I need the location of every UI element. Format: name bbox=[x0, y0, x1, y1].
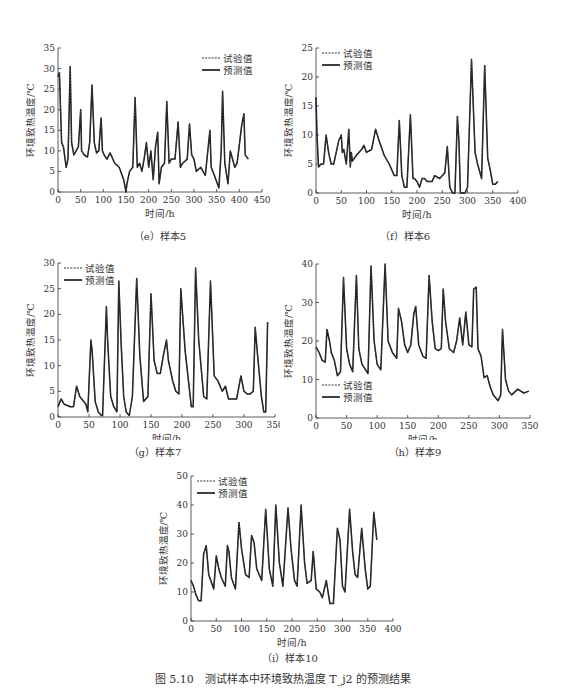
svg-text:环境致热温度/℃: 环境致热温度/℃ bbox=[25, 83, 36, 157]
svg-text:25: 25 bbox=[44, 84, 56, 94]
svg-text:200: 200 bbox=[408, 196, 425, 206]
svg-text:25: 25 bbox=[302, 43, 314, 53]
chart-panel-h: 050100150200250300350010203040时间/h环境致热温度… bbox=[280, 250, 566, 460]
chart-panel-g: 050100150200250300350051015202530时间/h环境致… bbox=[0, 250, 280, 460]
legend: 试验值预测值 bbox=[322, 48, 373, 71]
svg-text:时间/h: 时间/h bbox=[152, 433, 181, 440]
svg-text:350: 350 bbox=[484, 196, 501, 206]
svg-text:试验值: 试验值 bbox=[343, 380, 373, 391]
legend: 试验值预测值 bbox=[202, 53, 253, 76]
chart-panel-f: 0501001502002503003504000510152025时间/h环境… bbox=[280, 30, 566, 245]
svg-text:350: 350 bbox=[521, 421, 538, 431]
svg-text:50: 50 bbox=[75, 195, 87, 205]
svg-text:0: 0 bbox=[188, 624, 194, 634]
svg-text:150: 150 bbox=[142, 420, 159, 430]
svg-text:400: 400 bbox=[231, 195, 248, 205]
chart-panel-e: 0501001502002503003504004500510152025303… bbox=[0, 30, 280, 245]
svg-text:20: 20 bbox=[177, 558, 189, 568]
line-chart-e: 0501001502002503003504004500510152025303… bbox=[0, 30, 280, 230]
svg-text:200: 200 bbox=[430, 421, 447, 431]
svg-text:预测值: 预测值 bbox=[343, 60, 373, 71]
svg-text:25: 25 bbox=[44, 284, 56, 294]
subtitle-g: （g）样本7 bbox=[0, 444, 310, 459]
svg-text:350: 350 bbox=[208, 195, 225, 205]
svg-text:试验值: 试验值 bbox=[343, 48, 373, 59]
svg-text:50: 50 bbox=[211, 624, 223, 634]
svg-text:预测值: 预测值 bbox=[223, 65, 253, 76]
subtitle-f: （f）样本6 bbox=[280, 228, 530, 243]
svg-text:预测值: 预测值 bbox=[218, 488, 248, 499]
svg-text:350: 350 bbox=[359, 624, 376, 634]
svg-text:150: 150 bbox=[117, 195, 134, 205]
svg-text:35: 35 bbox=[44, 43, 56, 53]
line-chart-g: 050100150200250300350051015202530时间/h环境致… bbox=[0, 250, 280, 440]
svg-text:250: 250 bbox=[163, 195, 180, 205]
svg-text:20: 20 bbox=[44, 309, 56, 319]
svg-text:250: 250 bbox=[204, 420, 221, 430]
svg-text:300: 300 bbox=[491, 421, 508, 431]
svg-text:100: 100 bbox=[369, 421, 386, 431]
svg-text:100: 100 bbox=[233, 624, 250, 634]
svg-text:100: 100 bbox=[95, 195, 112, 205]
svg-text:试验值: 试验值 bbox=[218, 476, 248, 487]
svg-text:300: 300 bbox=[334, 624, 351, 634]
svg-text:200: 200 bbox=[283, 624, 300, 634]
svg-text:450: 450 bbox=[253, 195, 270, 205]
svg-text:50: 50 bbox=[83, 420, 95, 430]
svg-text:15: 15 bbox=[44, 335, 56, 345]
svg-text:0: 0 bbox=[313, 196, 319, 206]
svg-text:时间/h: 时间/h bbox=[145, 208, 174, 219]
svg-text:400: 400 bbox=[509, 196, 526, 206]
figure-caption-text: 图 5.10 测试样本中环境致热温度 T_j2 的预测结果 bbox=[155, 673, 411, 686]
svg-text:时间/h: 时间/h bbox=[277, 637, 306, 648]
svg-text:50: 50 bbox=[177, 471, 189, 481]
svg-text:0: 0 bbox=[307, 413, 313, 423]
svg-text:时间/h: 时间/h bbox=[408, 434, 437, 440]
figure-caption: 图 5.10 测试样本中环境致热温度 T_j2 的预测结果 bbox=[0, 670, 566, 686]
svg-text:5: 5 bbox=[49, 386, 55, 396]
svg-text:50: 50 bbox=[336, 196, 348, 206]
svg-text:0: 0 bbox=[313, 421, 319, 431]
svg-text:20: 20 bbox=[302, 336, 314, 346]
svg-text:10: 10 bbox=[44, 361, 56, 371]
svg-text:预测值: 预测值 bbox=[85, 275, 115, 286]
svg-text:环境致热温度/℃: 环境致热温度/℃ bbox=[25, 303, 36, 377]
svg-text:0: 0 bbox=[55, 195, 61, 205]
svg-text:20: 20 bbox=[44, 105, 56, 115]
svg-text:预测值: 预测值 bbox=[343, 392, 373, 403]
svg-text:30: 30 bbox=[44, 64, 56, 74]
svg-text:5: 5 bbox=[49, 166, 55, 176]
svg-text:350: 350 bbox=[266, 420, 280, 430]
svg-text:50: 50 bbox=[341, 421, 353, 431]
svg-text:200: 200 bbox=[173, 420, 190, 430]
svg-text:10: 10 bbox=[177, 587, 189, 597]
svg-text:试验值: 试验值 bbox=[85, 263, 115, 274]
svg-text:300: 300 bbox=[459, 196, 476, 206]
legend: 试验值预测值 bbox=[64, 263, 115, 286]
svg-text:时间/h: 时间/h bbox=[402, 209, 431, 220]
legend: 试验值预测值 bbox=[322, 380, 373, 403]
line-chart-h: 050100150200250300350010203040时间/h环境致热温度… bbox=[280, 250, 566, 440]
line-chart-i: 05010015020025030035040001020304050时间/h环… bbox=[140, 460, 420, 650]
svg-text:15: 15 bbox=[302, 101, 314, 111]
svg-text:100: 100 bbox=[111, 420, 128, 430]
svg-text:20: 20 bbox=[302, 72, 314, 82]
svg-text:10: 10 bbox=[302, 375, 314, 385]
svg-text:400: 400 bbox=[384, 624, 401, 634]
svg-text:0: 0 bbox=[49, 412, 55, 422]
svg-text:0: 0 bbox=[182, 616, 188, 626]
svg-text:300: 300 bbox=[185, 195, 202, 205]
subtitle-i: （i）样本10 bbox=[140, 650, 440, 665]
svg-text:150: 150 bbox=[383, 196, 400, 206]
svg-text:环境致热温度/℃: 环境致热温度/℃ bbox=[283, 83, 294, 157]
svg-text:200: 200 bbox=[140, 195, 157, 205]
svg-text:40: 40 bbox=[177, 500, 189, 510]
svg-text:250: 250 bbox=[434, 196, 451, 206]
svg-text:环境致热温度/℃: 环境致热温度/℃ bbox=[158, 511, 169, 585]
svg-text:150: 150 bbox=[258, 624, 275, 634]
svg-text:15: 15 bbox=[44, 125, 56, 135]
svg-text:250: 250 bbox=[460, 421, 477, 431]
svg-text:试验值: 试验值 bbox=[223, 53, 253, 64]
svg-text:30: 30 bbox=[302, 298, 314, 308]
svg-text:0: 0 bbox=[307, 188, 313, 198]
